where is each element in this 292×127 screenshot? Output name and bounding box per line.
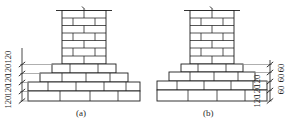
panel-a (19, 7, 140, 104)
dimension-label-a-5: 120 (3, 96, 13, 109)
dimension-label-a-4: 120 (3, 84, 13, 97)
footing-tier-a-2 (40, 73, 128, 82)
footing-tier-b-4 (157, 90, 267, 101)
dimension-label-b-outer-3: 60 (276, 86, 286, 95)
dimension-line-a (19, 48, 25, 104)
pier-column-a (62, 11, 106, 65)
footing-tier-a-1 (52, 64, 116, 73)
dimension-label-b-outer-2: 60 (276, 74, 286, 83)
panel-caption-b: (b) (203, 108, 214, 118)
footing-tier-a-3 (28, 82, 140, 91)
panel-caption-a: (a) (76, 108, 86, 118)
drawing-sheet: 120 120 120 120 120 120 120 120 60 60 60… (0, 0, 292, 127)
footing-tier-b-1 (181, 64, 243, 72)
dimension-label-b-inner-3: 120 (252, 95, 262, 108)
pier-column-b (190, 11, 234, 65)
footing-tier-b-2 (169, 72, 255, 81)
elevation-drawing-svg (0, 0, 292, 127)
dimension-label-a-1: 120 (3, 51, 13, 64)
footing-tier-a-4 (28, 91, 140, 101)
footing-tier-b-3 (157, 81, 267, 90)
dimension-label-b-outer-1: 60 (276, 64, 286, 73)
